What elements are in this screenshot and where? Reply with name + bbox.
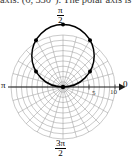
- polar-graph-figure: axis: (6, 330°). The polar axis is: [0, 0, 133, 163]
- angle-label-pi-over-2: π 2: [57, 6, 64, 25]
- radial-tick-label-5: 5: [92, 89, 96, 97]
- pi-over-2-denominator: 2: [57, 16, 64, 25]
- radial-tick-label-10: 10: [110, 88, 117, 96]
- angle-label-3pi-over-2: 3π 2: [55, 139, 66, 158]
- polar-plot-canvas: [0, 0, 133, 163]
- curve-point-origin: [61, 85, 65, 89]
- three-pi-over-2-denominator: 2: [55, 149, 66, 158]
- curve-point: [34, 69, 38, 73]
- curve-point: [88, 38, 92, 42]
- curve-point: [34, 38, 38, 42]
- angle-label-pi: π: [1, 81, 6, 90]
- curve-point: [88, 69, 92, 73]
- angle-label-zero: 0: [123, 80, 128, 89]
